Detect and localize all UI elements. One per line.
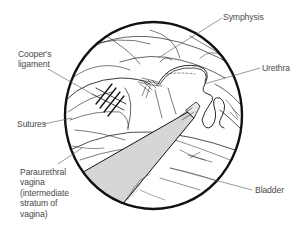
label-coopers-ligament: Cooper's ligament bbox=[18, 49, 51, 70]
grasper-instrument bbox=[78, 102, 200, 212]
label-symphysis: Symphysis bbox=[223, 12, 264, 22]
sutures-marks bbox=[92, 84, 126, 116]
label-sutures: Sutures bbox=[17, 119, 46, 129]
leader-sutures bbox=[44, 118, 72, 124]
leader-paraurethral-vagina bbox=[58, 148, 82, 164]
label-urethra: Urethra bbox=[262, 63, 290, 73]
label-paraurethral-vagina: Paraurethral vagina (intermediate stratu… bbox=[20, 167, 69, 219]
leader-coopers-ligament bbox=[48, 69, 92, 94]
diagram-canvas: Cooper's ligament Symphysis Urethra Sutu… bbox=[0, 0, 303, 227]
label-bladder: Bladder bbox=[255, 185, 284, 195]
